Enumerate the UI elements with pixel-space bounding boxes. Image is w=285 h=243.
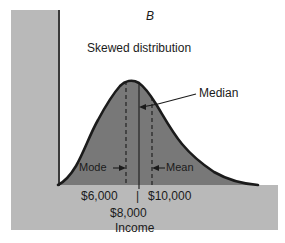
- median-leader-line: [158, 94, 196, 104]
- figure-panel-b: B Skewed distribution Median Mode Mean $…: [0, 0, 285, 243]
- tick-separator: |: [136, 190, 139, 202]
- mean-annotation-label: Mean: [166, 162, 194, 173]
- median-annotation-label: Median: [199, 87, 238, 99]
- x-axis-label: Income: [115, 222, 154, 234]
- mode-tick-value: $6,000: [81, 190, 118, 202]
- mode-annotation-label: Mode: [79, 162, 107, 173]
- mean-tick-value: $10,000: [148, 190, 191, 202]
- median-tick-value: $8,000: [110, 207, 147, 219]
- chart-title: Skewed distribution: [87, 42, 191, 54]
- panel-label: B: [146, 10, 154, 22]
